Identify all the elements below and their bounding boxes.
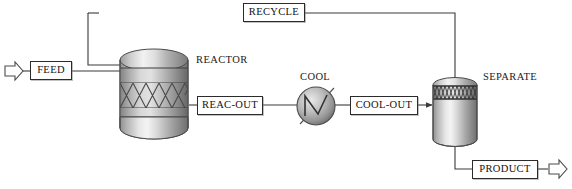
stream-label-reac-out: REAC-OUT [202,100,258,111]
stream-label-feed: FEED [37,65,65,76]
line-separator-to-product [455,146,472,169]
stream-label-cool-out: COOL-OUT [356,100,412,111]
stream-box-feed[interactable]: FEED [30,61,72,80]
cooler-exchanger-graphic [297,87,335,125]
unit-label-separate: SEPARATE [483,72,537,83]
line-separator-to-recycle [243,13,455,79]
separator-vessel-graphic [433,78,477,147]
unit-label-reactor: REACTOR [196,55,248,66]
flowsheet-canvas: FEED RECYCLE REAC-OUT COOL-OUT PRODUCT R… [0,0,572,189]
stream-box-product[interactable]: PRODUCT [472,160,538,179]
unit-label-cool: COOL [300,72,330,83]
stream-label-product: PRODUCT [479,164,530,175]
reactor-vessel-graphic [120,49,191,139]
stream-label-recycle: RECYCLE [249,7,299,18]
stream-box-reac-out[interactable]: REAC-OUT [197,96,263,115]
stream-box-cool-out[interactable]: COOL-OUT [350,96,418,115]
stream-box-recycle[interactable]: RECYCLE [243,3,305,22]
feed-inlet-arrow-glyph [5,62,23,80]
product-outlet-arrow-glyph [549,160,567,178]
